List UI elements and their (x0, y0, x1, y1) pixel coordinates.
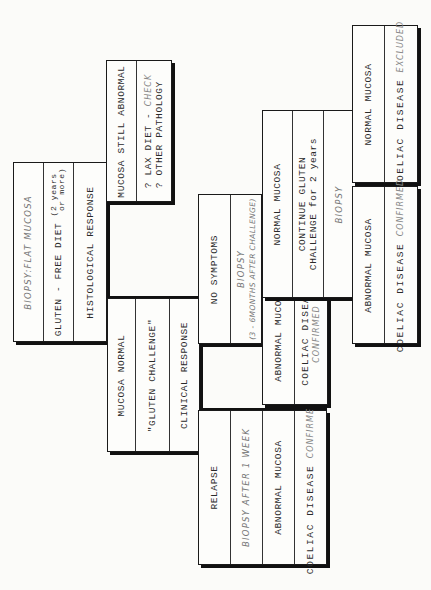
ns-normal-action-cell: CONTINUE GLUTEN CHALLENGE for 2 years (293, 111, 324, 297)
root-diet-label: GLUTEN - FREE DIET (2 years or more) (51, 168, 67, 336)
no-symptoms-biopsy-timing: (3 - 6MONTHS AFTER CHALLENGE) (247, 198, 258, 339)
ns-normal-action-1: CONTINUE GLUTEN (297, 138, 308, 270)
ns-normal-finding: NORMAL MUCOSA (272, 163, 283, 245)
relapse-biopsy: BIOPSY AFTER 1 WEEK (241, 428, 252, 547)
still-abnormal-checks-cell: ? LAX DIET - CHECK ? OTHER PATHOLOGY (137, 61, 171, 201)
final-abnormal-finding-cell: ABNORMAL MUCOSA (353, 187, 385, 343)
node-ns-normal: NORMAL MUCOSA CONTINUE GLUTEN CHALLENGE … (262, 110, 357, 298)
mucosa-normal-challenge: "GLUTEN CHALLENGE" (147, 318, 158, 431)
final-normal-finding-cell: NORMAL MUCOSA (353, 26, 385, 182)
node-final-normal: NORMAL MUCOSA COELIAC DISEASE EXCLUDED (352, 25, 418, 183)
final-normal-finding: NORMAL MUCOSA (363, 63, 374, 145)
mucosa-normal-challenge-cell: "GLUTEN CHALLENGE" (136, 299, 170, 451)
mucosa-normal-response-cell: CLINICAL RESPONSE (170, 299, 200, 451)
final-abnormal-diagnosis: COELIAC DISEASE CONFIRMED (396, 178, 407, 351)
root-diet-duration: (2 years or more) (51, 168, 67, 217)
no-symptoms-biopsy-cell: BIOPSY (3 - 6MONTHS AFTER CHALLENGE) (231, 195, 262, 343)
final-abnormal-finding: ABNORMAL MUCOSA (363, 218, 374, 313)
still-abnormal-line1: ? LAX DIET - CHECK (143, 74, 154, 188)
final-normal-diagnosis-cell: COELIAC DISEASE EXCLUDED (385, 26, 417, 182)
final-normal-diagnosis: COELIAC DISEASE EXCLUDED (396, 20, 407, 188)
relapse-diagnosis-cell: COELIAC DISEASE CONFIRMED (295, 411, 326, 564)
relapse-title-cell: RELAPSE (199, 411, 231, 564)
still-abnormal-title: MUCOSA STILL ABNORMAL (116, 65, 127, 197)
mucosa-normal-title-cell: MUCOSA NORMAL (108, 299, 136, 451)
no-symptoms-biopsy: BIOPSY (3 - 6MONTHS AFTER CHALLENGE) (236, 198, 258, 339)
relapse-biopsy-cell: BIOPSY AFTER 1 WEEK (231, 411, 263, 564)
mucosa-normal-title: MUCOSA NORMAL (116, 334, 127, 416)
relapse-finding: ABNORMAL MUCOSA (273, 440, 284, 535)
no-symptoms-title-cell: NO SYMPTOMS (199, 195, 231, 343)
root-response-label: HISTOLOGICAL RESPONSE (85, 186, 96, 318)
no-symptoms-title: NO SYMPTOMS (209, 234, 220, 303)
node-no-symptoms: NO SYMPTOMS BIOPSY (3 - 6MONTHS AFTER CH… (198, 194, 262, 344)
still-abnormal-checks: ? LAX DIET - CHECK ? OTHER PATHOLOGY (143, 74, 165, 188)
still-abnormal-title-cell: MUCOSA STILL ABNORMAL (107, 61, 137, 201)
final-abnormal-diagnosis-status: CONFIRMED (397, 178, 406, 236)
final-normal-diagnosis-status: EXCLUDED (397, 20, 406, 72)
ns-normal-biopsy: BIOPSY (335, 185, 346, 223)
final-abnormal-diagnosis-cell: COELIAC DISEASE CONFIRMED (385, 187, 417, 343)
relapse-title: RELAPSE (209, 465, 220, 509)
root-diet-text: GLUTEN - FREE DIET (53, 223, 64, 336)
ns-abnormal-finding: ABNORMAL MUCOSA (273, 287, 284, 382)
node-final-abnormal: ABNORMAL MUCOSA COELIAC DISEASE CONFIRME… (352, 186, 418, 344)
root-response-cell: HISTOLOGICAL RESPONSE (74, 163, 106, 341)
relapse-diagnosis-label: COELIAC DISEASE (305, 465, 316, 575)
node-root: BIOPSY:FLAT MUCOSA GLUTEN - FREE DIET (2… (13, 162, 107, 342)
still-abnormal-line1-prefix: ? LAX DIET - (143, 106, 154, 188)
node-still-abnormal: MUCOSA STILL ABNORMAL ? LAX DIET - CHECK… (106, 60, 172, 202)
root-diet-duration-2: or more (58, 173, 67, 211)
final-abnormal-diagnosis-label: COELIAC DISEASE (396, 242, 407, 352)
root-diet-cell: GLUTEN - FREE DIET (2 years or more) (44, 163, 74, 341)
relapse-finding-cell: ABNORMAL MUCOSA (263, 411, 295, 564)
still-abnormal-line1-italic: CHECK (144, 74, 153, 107)
relapse-diagnosis: COELIAC DISEASE CONFIRMED (305, 401, 316, 574)
node-mucosa-normal: MUCOSA NORMAL "GLUTEN CHALLENGE" CLINICA… (107, 298, 200, 452)
still-abnormal-line2: ? OTHER PATHOLOGY (154, 74, 165, 188)
ns-normal-action-2: CHALLENGE for 2 years (308, 138, 319, 270)
ns-normal-action: CONTINUE GLUTEN CHALLENGE for 2 years (297, 138, 319, 270)
mucosa-normal-response: CLINICAL RESPONSE (180, 321, 191, 428)
ns-normal-finding-cell: NORMAL MUCOSA (263, 111, 293, 297)
relapse-diagnosis-status: CONFIRMED (306, 401, 315, 459)
final-normal-diagnosis-label: COELIAC DISEASE (396, 78, 407, 188)
no-symptoms-biopsy-label: BIOPSY (236, 198, 247, 339)
root-biopsy-cell: BIOPSY:FLAT MUCOSA (14, 163, 44, 341)
node-relapse: RELAPSE BIOPSY AFTER 1 WEEK ABNORMAL MUC… (198, 410, 327, 565)
root-biopsy-label: BIOPSY:FLAT MUCOSA (23, 195, 34, 310)
